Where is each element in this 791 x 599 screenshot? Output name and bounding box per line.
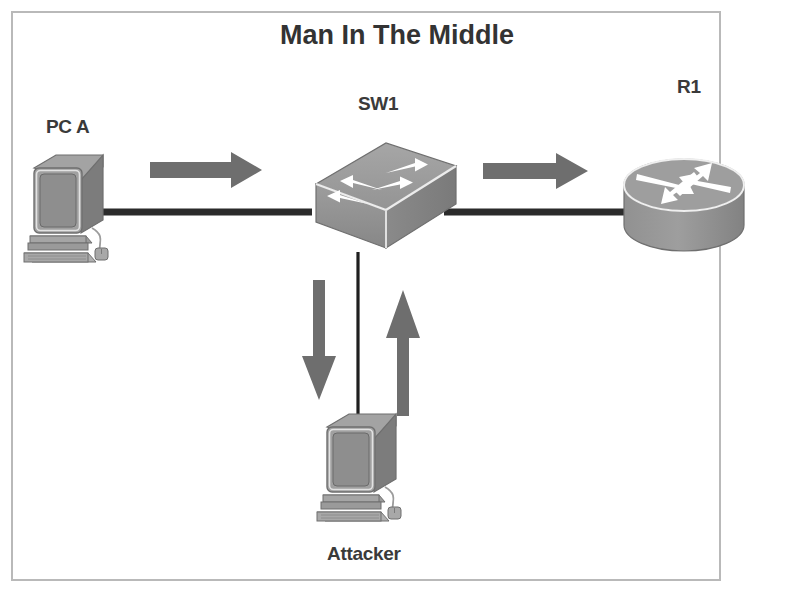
node-label-attacker: Attacker xyxy=(327,543,401,565)
diagram-title: Man In The Middle xyxy=(280,20,514,51)
node-label-pc-a: PC A xyxy=(46,116,90,138)
node-label-r1: R1 xyxy=(677,76,701,98)
node-label-sw1: SW1 xyxy=(358,93,398,115)
diagram-canvas: Man In The Middle PC A SW1 R1 Attacker xyxy=(0,0,791,599)
